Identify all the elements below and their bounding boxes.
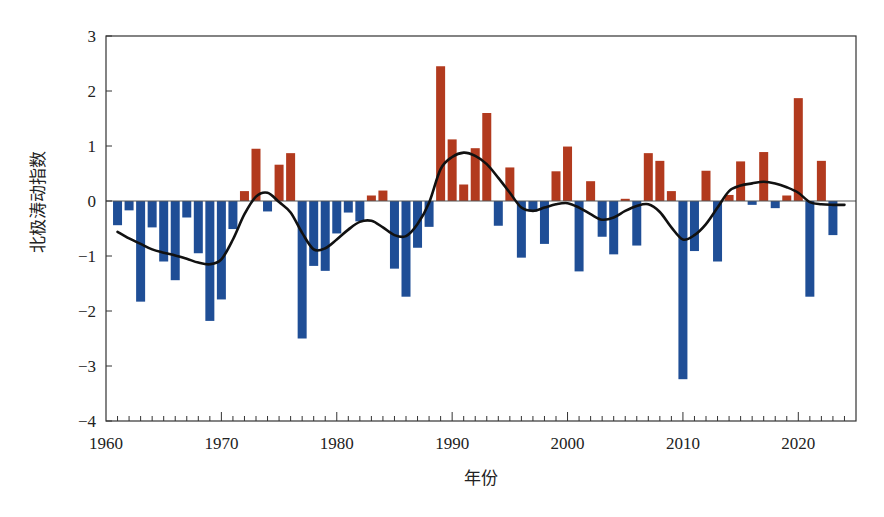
- bar-1962: [125, 201, 134, 210]
- bar-1991: [459, 185, 468, 202]
- bar-2019: [782, 196, 791, 202]
- bar-1980: [332, 201, 341, 233]
- x-axis-title: 年份: [464, 468, 498, 488]
- y-tick-label: −4: [78, 412, 97, 431]
- bar-2015: [736, 161, 745, 201]
- bar-1982: [355, 201, 364, 221]
- x-tick-label: 1990: [435, 434, 469, 453]
- bar-2012: [702, 171, 711, 201]
- bar-1971: [228, 201, 237, 229]
- bar-2007: [644, 153, 653, 201]
- bar-1969: [205, 201, 214, 321]
- bar-1974: [263, 201, 272, 211]
- bar-1966: [171, 201, 180, 280]
- x-tick-label: 1960: [89, 434, 123, 453]
- bar-1976: [286, 153, 295, 201]
- bar-1981: [344, 201, 353, 213]
- bar-1984: [378, 191, 387, 201]
- x-tick-label: 2010: [666, 434, 700, 453]
- bar-1975: [275, 165, 284, 201]
- x-tick-label: 1970: [204, 434, 238, 453]
- x-tick-label: 2020: [781, 434, 815, 453]
- bar-1970: [217, 201, 226, 299]
- bar-1967: [182, 201, 191, 218]
- bar-1963: [136, 201, 145, 302]
- bar-2021: [805, 201, 814, 297]
- bar-2010: [678, 201, 687, 379]
- bar-2022: [817, 161, 826, 201]
- bar-2002: [586, 181, 595, 201]
- y-tick-label: −2: [78, 302, 96, 321]
- y-axis: −4−3−2−10123: [78, 27, 112, 431]
- bar-2018: [771, 201, 780, 208]
- bar-2004: [609, 201, 618, 254]
- y-tick-label: 3: [88, 27, 97, 46]
- bar-1972: [240, 191, 249, 201]
- bar-2020: [794, 98, 803, 201]
- bar-1999: [552, 171, 561, 201]
- bar-2017: [759, 152, 768, 201]
- y-tick-label: 1: [88, 137, 97, 156]
- y-tick-label: 2: [88, 82, 97, 101]
- y-axis-title: 北极涛动指数: [28, 151, 48, 253]
- bar-1977: [298, 201, 307, 339]
- bar-series: [113, 66, 837, 379]
- smooth-trend-line: [118, 153, 845, 265]
- bar-2000: [563, 147, 572, 201]
- bar-2008: [655, 161, 664, 201]
- y-tick-label: −3: [78, 357, 96, 376]
- bar-1979: [321, 201, 330, 271]
- bar-1993: [482, 113, 491, 201]
- bar-2011: [690, 201, 699, 251]
- bar-1986: [402, 201, 411, 297]
- chart-canvas: −4−3−2−10123 196019701980199020002010202…: [0, 0, 884, 517]
- bar-2001: [575, 201, 584, 271]
- bar-1968: [194, 201, 203, 253]
- x-tick-label: 1980: [320, 434, 354, 453]
- bar-1961: [113, 201, 122, 225]
- x-axis: 1960197019801990200020102020: [89, 412, 844, 453]
- y-tick-label: −1: [78, 247, 96, 266]
- bar-1964: [148, 201, 157, 227]
- x-tick-label: 2000: [551, 434, 585, 453]
- bar-2016: [748, 201, 757, 205]
- bar-1978: [309, 201, 318, 266]
- bar-1990: [448, 139, 457, 201]
- bar-1994: [494, 201, 503, 226]
- y-tick-label: 0: [88, 192, 97, 211]
- bar-1983: [367, 196, 376, 202]
- bar-2009: [667, 191, 676, 201]
